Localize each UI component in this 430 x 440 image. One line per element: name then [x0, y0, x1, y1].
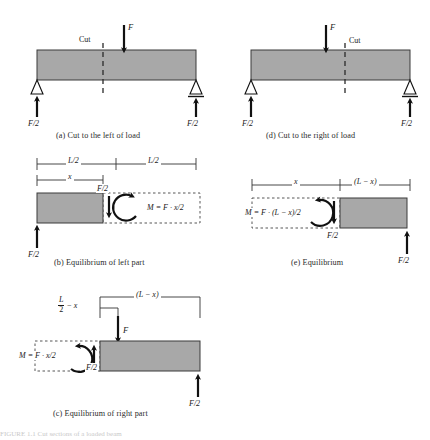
label-reaction-a-left: F/2: [28, 119, 39, 128]
diagram-canvas: [0, 0, 430, 440]
label-dim-c-half-minus-x: L 2 − x: [58, 296, 77, 314]
label-reaction-a-right: F/2: [187, 119, 198, 128]
beam-d: [251, 50, 410, 80]
beam-part-c: [100, 341, 200, 371]
caption-d: (d) Cut to the right of load: [266, 131, 355, 140]
label-load-c: F: [123, 325, 128, 335]
label-moment-b: M = F · x/2: [147, 203, 184, 212]
beam-a: [37, 50, 196, 80]
support-roller-d: [404, 80, 416, 94]
panel-d: [245, 25, 418, 117]
caption-c: (c) Equilibrium of right part: [53, 409, 148, 418]
label-cut-a: Cut: [79, 35, 91, 44]
beam-diagram-figure: Cut F F/2 F/2 (a) Cut to the left of loa…: [0, 0, 430, 440]
moment-arrow-b: [113, 195, 136, 221]
label-reaction-d-left: F/2: [242, 119, 253, 128]
label-load-d: F: [330, 22, 335, 32]
label-reaction-d-right: F/2: [401, 119, 412, 128]
label-reaction-c: F/2: [189, 399, 200, 408]
support-roller-a: [190, 80, 202, 94]
label-shear-e: F/2: [327, 231, 338, 240]
label-dim-b-half-right: L/2: [146, 156, 161, 165]
caption-b: (b) Equilibrium of left part: [54, 258, 145, 267]
label-cut-d: Cut: [349, 36, 361, 45]
label-dim-c-Lx: (L − x): [134, 290, 161, 299]
label-moment-e: M = F · (L − x)/2: [244, 208, 302, 217]
beam-part-e: [340, 198, 407, 228]
label-dim-e-Lx: (L − x): [352, 177, 379, 186]
label-minus-x: − x: [66, 301, 77, 310]
label-dim-b-half-left: L/2: [66, 156, 81, 165]
label-dim-e-x: x: [292, 177, 300, 186]
caption-e: (e) Equilibrium: [291, 258, 343, 267]
caption-a: (a) Cut to the left of load: [56, 131, 140, 140]
label-shear-b: F/2: [96, 184, 109, 193]
label-reaction-b: F/2: [28, 250, 39, 259]
label-shear-c: F/2: [85, 363, 98, 372]
support-pin-a: [31, 80, 43, 94]
panel-a: [31, 25, 204, 117]
label-reaction-e: F/2: [398, 256, 409, 265]
moment-arrow-e: [311, 200, 333, 226]
page-footer-fragment: FIGURE 1.1 Cut sections of a loaded beam: [0, 430, 430, 440]
fraction-L-over-2: L 2: [58, 296, 64, 314]
label-dim-b-x: x: [66, 172, 74, 181]
label-moment-c: M = F · x/2: [18, 351, 57, 360]
support-pin-d: [245, 80, 257, 94]
beam-part-b: [37, 193, 103, 223]
label-load-a: F: [128, 22, 133, 32]
